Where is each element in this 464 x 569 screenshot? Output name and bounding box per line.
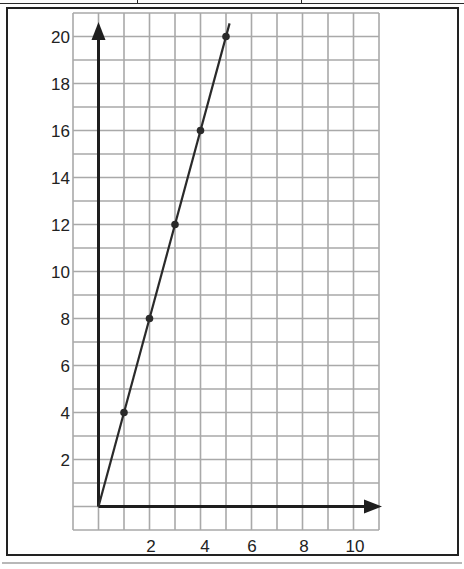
y-tick-label: 6 <box>61 357 70 376</box>
y-tick-label: 10 <box>51 263 70 282</box>
data-point-marker <box>222 33 230 41</box>
x-tick-label: 2 <box>146 537 155 556</box>
x-tick-label: 6 <box>247 537 256 556</box>
x-tick-label: 4 <box>200 537 209 556</box>
x-axis-tick-labels: 246810 <box>146 537 364 556</box>
axes <box>92 22 383 514</box>
data-point-marker <box>171 221 179 229</box>
y-tick-label: 4 <box>61 404 70 423</box>
y-tick-label: 16 <box>51 122 70 141</box>
data-point-marker <box>146 315 154 323</box>
y-axis-tick-labels: 2468101214161820 <box>51 28 70 470</box>
y-tick-label: 2 <box>61 451 70 470</box>
x-tick-label: 10 <box>346 537 365 556</box>
y-tick-label: 18 <box>51 75 70 94</box>
data-point-marker <box>120 409 128 417</box>
y-tick-label: 12 <box>51 216 70 235</box>
data-series <box>99 23 230 506</box>
x-tick-label: 8 <box>299 537 308 556</box>
line-chart: 2468101214161820 246810 <box>0 0 464 569</box>
y-axis-arrow-icon <box>92 22 106 40</box>
series-line <box>99 23 230 506</box>
data-point-marker <box>197 127 205 135</box>
y-tick-label: 8 <box>61 310 70 329</box>
y-tick-label: 14 <box>51 169 70 188</box>
grid <box>73 13 379 530</box>
y-tick-label: 20 <box>51 28 70 47</box>
